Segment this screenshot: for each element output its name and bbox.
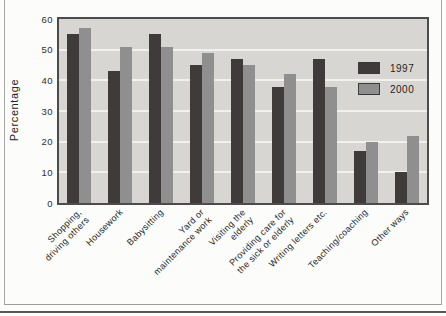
bar-2000-visiting-the-elderly — [243, 65, 255, 203]
bar-2000-housework — [120, 47, 132, 203]
y-tick-label-10: 10 — [23, 167, 53, 178]
bar-1997-babysitting — [149, 34, 161, 203]
legend: 1997 2000 — [358, 62, 414, 104]
bar-1997-shopping-driving-others — [67, 34, 79, 203]
y-tick-label-0: 0 — [23, 198, 53, 209]
bar-1997-teaching-coaching — [354, 151, 366, 203]
legend-item-2000: 2000 — [358, 83, 414, 95]
y-tick-label-20: 20 — [23, 136, 53, 147]
y-tick-label-40: 40 — [23, 75, 53, 86]
bar-2000-yard-or-maintenance-work — [202, 53, 214, 203]
page-edge-line — [0, 311, 446, 313]
bar-2000-shopping-driving-others — [79, 28, 91, 203]
bar-1997-providing-care-for-the-sick-or-elderly — [272, 87, 284, 204]
bar-1997-yard-or-maintenance-work — [190, 65, 202, 203]
y-tick-label-60: 60 — [23, 14, 53, 25]
bar-2000-teaching-coaching — [366, 142, 378, 203]
bar-chart-figure: Percentage 1997 2000 0102030405060Shoppi… — [0, 0, 446, 316]
bar-1997-visiting-the-elderly — [231, 59, 243, 203]
y-tick-label-30: 30 — [23, 106, 53, 117]
bar-2000-writing-letters-etc — [325, 87, 337, 204]
legend-item-1997: 1997 — [358, 62, 414, 74]
bar-2000-providing-care-for-the-sick-or-elderly — [284, 74, 296, 203]
bar-2000-babysitting — [161, 47, 173, 203]
plot-area — [57, 17, 429, 205]
y-tick-label-50: 50 — [23, 44, 53, 55]
bar-1997-other-ways — [395, 172, 407, 203]
legend-label-1997: 1997 — [390, 63, 414, 74]
legend-label-2000: 2000 — [390, 84, 414, 95]
bar-1997-writing-letters-etc — [313, 59, 325, 203]
legend-swatch-1997 — [358, 62, 380, 74]
gridline-50 — [59, 49, 427, 51]
bar-1997-housework — [108, 71, 120, 203]
bar-2000-other-ways — [407, 136, 419, 204]
y-axis-title: Percentage — [8, 50, 20, 170]
legend-swatch-2000 — [358, 83, 380, 95]
